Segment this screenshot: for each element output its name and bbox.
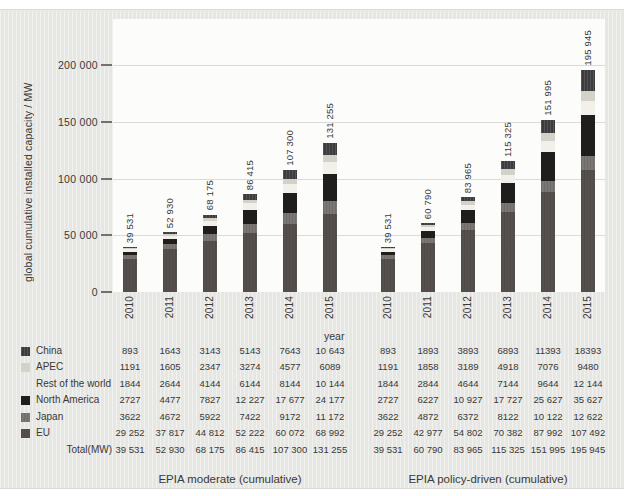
table-cell: 2644: [148, 378, 192, 389]
gridline-100000: [113, 179, 605, 180]
x-tick-label-year: 2012: [462, 296, 476, 319]
bar-total-label: 107 300: [284, 130, 298, 166]
bar-segment-china: [323, 143, 337, 155]
legend-swatch-eu: [21, 429, 30, 438]
bar-segment-japan: [123, 255, 137, 259]
chart-figure: global cumulative installed capacity / M…: [0, 0, 624, 496]
bar-segment-japan: [163, 244, 177, 249]
table-cell-total: 39 531: [108, 444, 152, 455]
legend-label: Japan: [36, 411, 63, 422]
table-cell: 6372: [446, 411, 490, 422]
table-cell: 3274: [228, 361, 272, 372]
bar-segment-rest-of-the-world: [243, 203, 257, 210]
table-cell: 11393: [526, 345, 570, 356]
table-cell: 29 252: [366, 427, 410, 438]
x-tick-label-year: 2010: [382, 296, 396, 319]
table-cell: 3143: [188, 345, 232, 356]
table-cell: 5922: [188, 411, 232, 422]
plot-area: [113, 19, 605, 292]
table-cell: 42 977: [406, 427, 450, 438]
table-cell: 29 252: [108, 427, 152, 438]
bar-segment-china: [163, 232, 177, 234]
bar-segment-eu: [203, 241, 217, 292]
bar-total-label: 115 325: [502, 122, 516, 157]
y-tick-mark: [101, 64, 112, 66]
gridline-50000: [113, 235, 605, 236]
bar-segment-north-america: [243, 210, 257, 224]
bar-segment-china: [461, 197, 475, 201]
table-cell: 24 177: [308, 394, 352, 405]
legend-label: Rest of the world: [36, 378, 111, 389]
legend-label: China: [36, 345, 62, 356]
legend-swatch-china: [21, 347, 30, 356]
table-cell: 6144: [228, 378, 272, 389]
total-row-label: Total(MW): [20, 444, 112, 455]
table-cell: 1844: [108, 378, 152, 389]
table-cell: 18393: [566, 345, 610, 356]
bar-segment-japan: [541, 181, 555, 192]
x-tick-label-year: 2014: [542, 296, 556, 319]
bar-total-label: 68 175: [204, 180, 218, 210]
bar-total-label: 52 930: [164, 198, 178, 228]
table-cell: 9480: [566, 361, 610, 372]
bar-segment-north-america: [381, 252, 395, 255]
table-cell: 6089: [308, 361, 352, 372]
bar-total-label: 39 531: [124, 213, 138, 243]
table-cell: 7827: [188, 394, 232, 405]
x-tick-label-year: 2011: [422, 296, 436, 318]
bar-segment-apec: [283, 179, 297, 184]
x-tick-label-year: 2012: [204, 296, 218, 319]
x-tick-label-year: 2013: [244, 296, 258, 319]
bar-segment-north-america: [461, 210, 475, 222]
table-cell: 37 817: [148, 427, 192, 438]
bar-segment-rest-of-the-world: [421, 227, 435, 230]
y-tick-mark: [101, 291, 112, 293]
y-tick-label: 50 000: [38, 229, 98, 241]
table-cell-total: 86 415: [228, 444, 272, 455]
bar-segment-rest-of-the-world: [461, 205, 475, 210]
table-cell: 1191: [108, 361, 152, 372]
bar-segment-eu: [421, 243, 435, 292]
bar-segment-japan: [283, 213, 297, 223]
bar-total-label: 86 415: [244, 160, 258, 190]
table-cell: 2347: [188, 361, 232, 372]
bar-total-label: 195 945: [582, 30, 596, 66]
bar-segment-japan: [323, 201, 337, 214]
bar-segment-eu: [501, 212, 515, 292]
bar-segment-china: [283, 170, 297, 179]
table-cell: 4577: [268, 361, 312, 372]
legend-swatch-north-america: [21, 396, 30, 405]
table-cell: 68 992: [308, 427, 352, 438]
bar-segment-china: [203, 215, 217, 219]
bar-segment-china: [123, 247, 137, 248]
bar-segment-north-america: [163, 239, 177, 244]
table-cell: 893: [366, 345, 410, 356]
table-cell: 10 122: [526, 411, 570, 422]
gridline-200000: [113, 65, 605, 66]
bar-segment-apec: [461, 201, 475, 205]
legend-swatch-japan: [21, 413, 30, 422]
table-cell: 1643: [148, 345, 192, 356]
table-cell: 25 627: [526, 394, 570, 405]
legend-swatch-apec: [21, 363, 30, 372]
table-cell: 8144: [268, 378, 312, 389]
bar-segment-north-america: [123, 252, 137, 255]
bar-segment-eu: [323, 214, 337, 292]
chart-panel: global cumulative installed capacity / M…: [0, 9, 624, 489]
table-cell: 1858: [406, 361, 450, 372]
bar-segment-apec: [421, 225, 435, 227]
table-cell-total: 68 175: [188, 444, 232, 455]
x-tick-label-year: 2014: [284, 296, 298, 319]
bar-segment-apec: [323, 155, 337, 162]
table-cell: 7144: [486, 378, 530, 389]
bar-segment-north-america: [203, 226, 217, 235]
bar-segment-apec: [243, 200, 257, 204]
bar-segment-rest-of-the-world: [203, 221, 217, 226]
table-cell: 6893: [486, 345, 530, 356]
bar-segment-japan: [581, 156, 595, 170]
bar-segment-apec: [581, 91, 595, 102]
table-cell: 3189: [446, 361, 490, 372]
table-cell: 1605: [148, 361, 192, 372]
table-cell-total: 115 325: [486, 444, 530, 455]
table-cell: 12 227: [228, 394, 272, 405]
